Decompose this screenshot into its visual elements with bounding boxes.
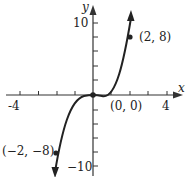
y-axis xyxy=(90,5,99,176)
point-label-neg2-neg8: (−2, −8) xyxy=(2,144,54,158)
y-axis-label: y xyxy=(81,0,89,14)
point-label-2-8: (2, 8) xyxy=(139,30,171,44)
point-origin xyxy=(90,92,96,98)
y-axis-arrow-icon xyxy=(90,5,97,15)
point-2-8 xyxy=(127,34,132,39)
point-label-origin: (0, 0) xyxy=(110,99,142,113)
cubic-function-graph: y x 10 −10 -4 4 (2, 8) (0, 0) (−2, −8) xyxy=(0,0,187,177)
curve-end-arrow-icon xyxy=(127,10,135,21)
x-axis-label: x xyxy=(178,81,185,95)
curve-start-arrow-icon xyxy=(52,167,60,177)
y-tick-label-neg10: −10 xyxy=(67,160,92,174)
y-tick-label-10: 10 xyxy=(73,16,88,30)
x-tick-label-4: 4 xyxy=(162,99,170,113)
x-tick-label-neg4: -4 xyxy=(8,99,20,113)
